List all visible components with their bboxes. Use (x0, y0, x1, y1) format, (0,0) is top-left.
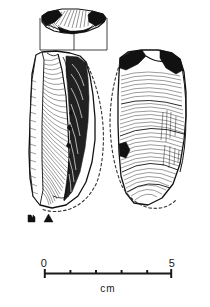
scale-start-label: 0 (41, 257, 48, 269)
scale-unit-label: cm (100, 283, 116, 294)
scale-end-label: 5 (169, 257, 176, 269)
figure-canvas: 0 5 cm (0, 0, 210, 307)
lithic-figure: 0 5 cm (0, 0, 210, 307)
section-marker-square-icon (28, 215, 35, 222)
